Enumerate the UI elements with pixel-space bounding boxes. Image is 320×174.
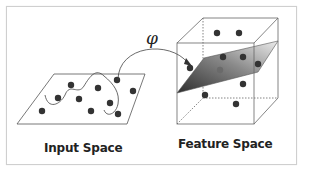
data-point — [76, 96, 82, 102]
data-point — [217, 67, 223, 73]
data-point — [39, 108, 45, 114]
data-point — [187, 65, 193, 71]
data-point — [68, 82, 74, 88]
data-point — [240, 54, 246, 60]
data-point — [115, 111, 121, 117]
data-point — [240, 81, 246, 87]
data-point — [55, 95, 61, 101]
data-point — [233, 101, 239, 107]
data-point — [214, 30, 220, 36]
data-point — [255, 61, 261, 67]
data-point — [220, 54, 226, 60]
data-point — [88, 108, 94, 114]
feature-space-label: Feature Space — [178, 137, 272, 151]
data-point — [114, 77, 120, 83]
data-point — [107, 100, 113, 106]
input-space-label: Input Space — [44, 141, 122, 155]
data-point — [130, 88, 136, 94]
data-point — [236, 30, 242, 36]
data-point — [202, 92, 208, 98]
phi-mapping-symbol: φ — [146, 28, 158, 48]
arrow-head-icon — [184, 58, 192, 66]
data-point — [95, 85, 101, 91]
